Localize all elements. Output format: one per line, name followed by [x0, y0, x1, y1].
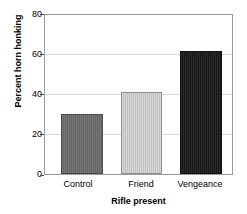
plot-area: [44, 14, 233, 175]
bar-chart: Percent horn honking 80 60 40 20 0 Contr…: [0, 0, 247, 214]
y-tick-mark-0: [40, 175, 44, 176]
y-tick-label-40: 40: [12, 90, 42, 99]
x-tick-label-vengeance: Vengeance: [162, 179, 238, 189]
y-axis-title: Percent horn honking: [13, 0, 23, 131]
y-tick-label-0: 0: [12, 170, 42, 179]
bar-control: [61, 114, 103, 174]
bar-friend: [121, 92, 162, 174]
y-tick-label-20: 20: [12, 130, 42, 139]
x-axis-title: Rifle present: [44, 196, 233, 206]
y-tick-label-80: 80: [12, 10, 42, 19]
y-tick-label-60: 60: [12, 50, 42, 59]
bar-vengeance: [180, 51, 222, 174]
